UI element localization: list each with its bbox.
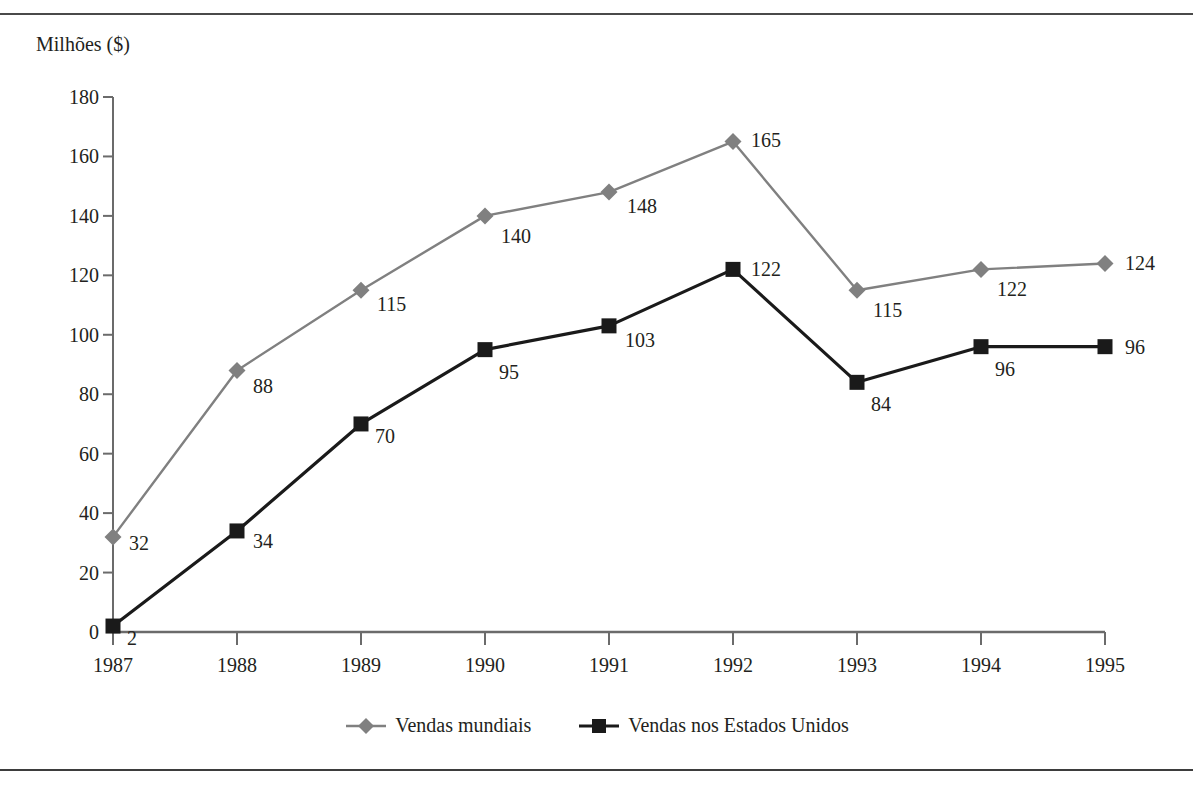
data-point-label: 70 xyxy=(375,424,395,447)
y-tick-label: 40 xyxy=(45,502,99,525)
y-tick-label: 120 xyxy=(45,264,99,287)
data-point-label: 115 xyxy=(377,293,406,316)
data-point-marker xyxy=(105,528,122,545)
y-tick-label: 80 xyxy=(45,383,99,406)
x-tick-label: 1993 xyxy=(812,654,902,677)
y-tick-label: 140 xyxy=(45,204,99,227)
data-point-marker xyxy=(601,184,618,201)
top-divider xyxy=(0,13,1193,15)
data-point-label: 32 xyxy=(129,531,149,554)
y-tick-label: 160 xyxy=(45,145,99,168)
data-point-marker xyxy=(229,362,246,379)
data-point-marker xyxy=(1097,255,1114,272)
data-point-marker xyxy=(726,262,741,277)
data-point-label: 96 xyxy=(995,357,1015,380)
x-tick-label: 1989 xyxy=(316,654,406,677)
top-caption xyxy=(0,0,1193,4)
data-point-marker xyxy=(974,339,989,354)
data-point-marker xyxy=(353,282,370,299)
data-point-label: 2 xyxy=(127,627,137,650)
x-tick-label: 1991 xyxy=(564,654,654,677)
y-tick-label: 60 xyxy=(45,442,99,465)
legend-item-vendas-estados-unidos[interactable]: Vendas nos Estados Unidos xyxy=(577,714,849,737)
series-line-0 xyxy=(113,142,1105,537)
legend-item-vendas-mundiais[interactable]: Vendas mundiais xyxy=(344,714,531,737)
data-point-marker xyxy=(478,342,493,357)
legend-label-vendas-mundiais: Vendas mundiais xyxy=(395,714,531,737)
data-point-label: 103 xyxy=(625,328,655,351)
data-point-label: 140 xyxy=(501,224,531,247)
data-point-label: 96 xyxy=(1125,335,1145,358)
y-tick-label: 180 xyxy=(45,86,99,109)
data-point-marker xyxy=(230,523,245,538)
data-point-marker xyxy=(850,375,865,390)
y-tick-label: 20 xyxy=(45,561,99,584)
x-tick-label: 1992 xyxy=(688,654,778,677)
data-point-marker xyxy=(106,619,121,634)
x-tick-label: 1990 xyxy=(440,654,530,677)
data-point-label: 84 xyxy=(871,393,891,416)
data-point-marker xyxy=(1098,339,1113,354)
data-point-label: 124 xyxy=(1125,252,1155,275)
data-point-marker xyxy=(973,261,990,278)
chart-page: Milhões ($) 020406080100120140160180 198… xyxy=(0,0,1193,801)
x-tick-label: 1994 xyxy=(936,654,1026,677)
data-point-label: 115 xyxy=(873,299,902,322)
x-tick-label: 1987 xyxy=(68,654,158,677)
diamond-marker-icon xyxy=(344,716,388,736)
data-point-label: 88 xyxy=(253,375,273,398)
y-tick-label: 100 xyxy=(45,323,99,346)
square-marker-icon xyxy=(577,716,621,736)
data-point-label: 95 xyxy=(499,360,519,383)
data-point-marker xyxy=(354,416,369,431)
legend-label-vendas-estados-unidos: Vendas nos Estados Unidos xyxy=(628,714,849,737)
data-point-label: 122 xyxy=(997,278,1027,301)
chart-legend: Vendas mundiais Vendas nos Estados Unido… xyxy=(0,714,1193,737)
data-point-label: 165 xyxy=(751,128,781,151)
bottom-divider xyxy=(0,769,1193,771)
data-point-label: 34 xyxy=(253,529,273,552)
data-point-marker xyxy=(602,318,617,333)
data-point-label: 148 xyxy=(627,195,657,218)
y-axis-title: Milhões ($) xyxy=(36,33,130,56)
x-tick-label: 1988 xyxy=(192,654,282,677)
data-point-marker xyxy=(477,207,494,224)
x-tick-label: 1995 xyxy=(1060,654,1150,677)
data-point-label: 122 xyxy=(751,258,781,281)
y-tick-label: 0 xyxy=(45,621,99,644)
